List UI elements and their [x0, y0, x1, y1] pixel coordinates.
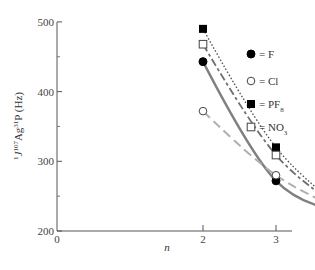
y-tick-label: 300	[38, 155, 55, 167]
open-circle-marker	[272, 171, 280, 179]
open-square-marker	[272, 151, 280, 159]
legend-label-pf8: = PF8	[259, 98, 284, 114]
y-tick-label: 500	[38, 16, 55, 28]
legend-open-circle-icon	[247, 77, 255, 85]
filled-circle-marker	[199, 58, 207, 66]
legend-label-cl: = Cl	[259, 75, 278, 87]
legend-filled-square-icon	[247, 100, 255, 108]
legend-open-square-icon	[247, 123, 255, 131]
legend-label-f: = F	[259, 48, 274, 60]
y-axis-label: 1J107Ag31P (Hz)	[12, 92, 25, 160]
filled-square-marker	[199, 25, 207, 33]
y-tick-label: 200	[38, 225, 55, 237]
y-tick-label: 400	[38, 86, 55, 98]
legend-filled-circle-icon	[247, 50, 255, 58]
open-square-marker	[199, 40, 207, 48]
x-axis-label: n	[164, 241, 170, 253]
legend-label-no3: = NO3	[259, 121, 288, 137]
legend: = F= Cl= PF8= NO3	[247, 48, 288, 137]
filled-square-marker	[272, 143, 280, 151]
y-ticks: 200300400500	[38, 16, 63, 237]
x-tick-label: 3	[273, 233, 279, 245]
x-ticks: 0234	[54, 225, 315, 245]
open-circle-marker	[199, 107, 207, 115]
x-tick-label: 2	[200, 233, 206, 245]
chart: 200300400500 0234 1J107Ag31P (Hz) n = F=…	[0, 0, 315, 270]
x-tick-label: 0	[54, 233, 60, 245]
